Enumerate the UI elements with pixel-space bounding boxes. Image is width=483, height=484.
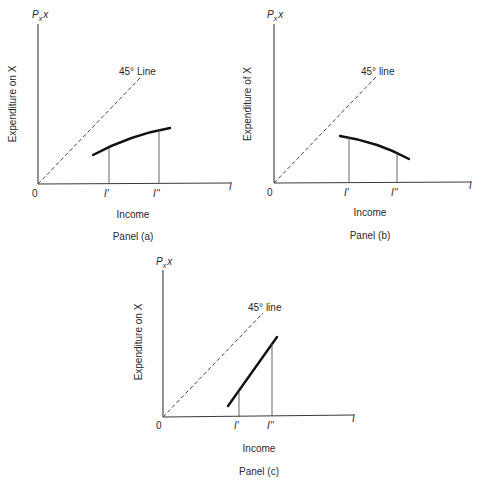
- panel-a-origin-label: 0: [32, 188, 38, 199]
- panel-b-45-degree-line: [274, 77, 376, 183]
- panel-c-caption: Panel (c): [239, 466, 279, 477]
- panel-a-x-axis-end-label: I: [229, 181, 232, 192]
- panel-a: Pxx Expenditure on X I 0 45° Line I' I''…: [7, 9, 232, 242]
- panel-a-tick-i1: I': [104, 188, 110, 199]
- panel-c: Pxx Expenditure on X I 0 45° line I' I''…: [133, 256, 355, 477]
- panel-c-y-axis-top-label: Pxx: [156, 256, 173, 269]
- panel-a-y-axis-label: Expenditure on X: [7, 65, 18, 142]
- panel-a-x-axis-label: Income: [117, 209, 150, 220]
- panel-a-expenditure-curve: [93, 128, 170, 155]
- panel-b-y-axis-label: Expenditure of X: [242, 67, 253, 141]
- panel-b-x-axis-label: Income: [354, 207, 387, 218]
- panel-a-x-axis: [38, 183, 231, 184]
- panel-a-45-degree-label: 45° Line: [119, 66, 156, 77]
- panel-a-caption: Panel (a): [113, 231, 154, 242]
- panel-c-expenditure-curve: [228, 337, 277, 406]
- panel-a-45-degree-line: [38, 78, 140, 184]
- panel-b-tick-i2: I'': [391, 187, 399, 198]
- panel-c-x-axis-end-label: I: [352, 413, 355, 424]
- panel-c-45-degree-label: 45° line: [248, 302, 282, 313]
- panel-c-tick-i1: I': [234, 420, 240, 431]
- panel-b: Pxx Expenditure of X I 0 45° line I' I''…: [242, 9, 472, 241]
- panel-b-y-axis-top-label: Pxx: [267, 9, 284, 22]
- panel-b-expenditure-curve: [340, 136, 409, 159]
- panel-b-caption: Panel (b): [350, 230, 391, 241]
- panel-b-tick-i1: I': [344, 187, 350, 198]
- panel-b-x-axis-end-label: I: [469, 180, 472, 191]
- engel-expenditure-figure: Pxx Expenditure on X I 0 45° Line I' I''…: [0, 0, 483, 484]
- panel-c-x-axis-label: Income: [243, 443, 276, 454]
- panel-c-y-axis-label: Expenditure on X: [133, 303, 144, 380]
- panel-c-tick-i2: I'': [267, 420, 275, 431]
- panel-c-origin-label: 0: [156, 420, 162, 431]
- panel-b-45-degree-label: 45° line: [361, 66, 395, 77]
- panel-a-y-axis-top-label: Pxx: [32, 9, 49, 22]
- panel-b-origin-label: 0: [267, 187, 273, 198]
- panel-b-x-axis: [274, 182, 471, 183]
- panel-a-tick-i2: I'': [153, 188, 161, 199]
- panel-c-x-axis: [163, 415, 354, 417]
- panel-c-45-degree-line: [163, 313, 263, 417]
